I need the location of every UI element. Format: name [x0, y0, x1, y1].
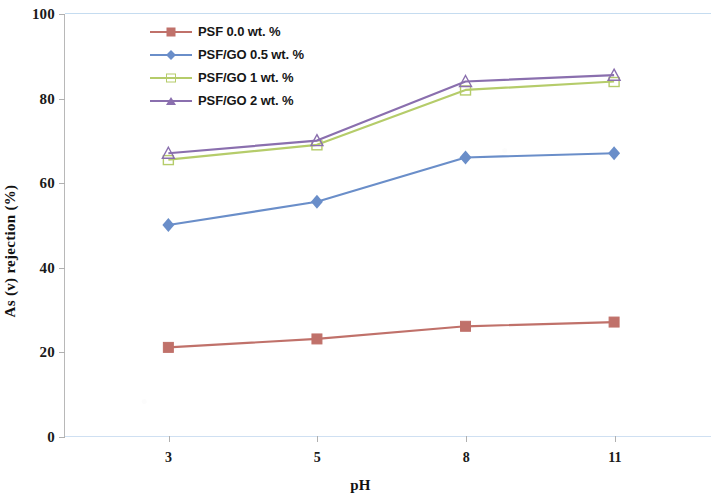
x-axis-tick-label: 11: [608, 450, 621, 466]
y-axis-tick-label: 80: [40, 90, 55, 107]
data-point-marker: [312, 334, 322, 344]
x-axis-tick: [317, 436, 318, 442]
legend: PSF 0.0 wt. %PSF/GO 0.5 wt. %PSF/GO 1 wt…: [150, 24, 304, 108]
legend-item-2[interactable]: PSF/GO 0.5 wt. %: [150, 47, 304, 62]
data-point-marker: [460, 150, 472, 164]
x-axis-tick-label: 3: [165, 450, 172, 466]
data-point-marker: [609, 317, 619, 327]
x-axis-tick: [169, 436, 170, 442]
legend-key-icon: [150, 94, 192, 108]
legend-label: PSF/GO 1 wt. %: [198, 70, 293, 85]
legend-label: PSF/GO 0.5 wt. %: [198, 47, 304, 62]
y-axis-tick-label: 20: [40, 344, 55, 361]
chart-figure: As (v) rejection (%) pH 020406080100 358…: [0, 0, 721, 502]
y-axis-tick: [59, 437, 65, 438]
legend-label: PSF 0.0 wt. %: [198, 24, 281, 39]
x-axis-tick: [615, 436, 616, 442]
y-axis-tick-label: 100: [32, 6, 55, 23]
legend-item-3[interactable]: PSF/GO 1 wt. %: [150, 70, 304, 85]
series-1: [163, 317, 619, 352]
data-point-marker: [608, 146, 620, 160]
x-axis-tick: [466, 436, 467, 442]
series-line: [168, 322, 614, 347]
y-axis-tick-label: 0: [47, 429, 55, 446]
x-axis-tick-label: 5: [314, 450, 321, 466]
x-axis-title: pH: [350, 477, 371, 494]
y-axis-title: As (v) rejection (%): [2, 185, 19, 318]
data-point-marker: [311, 195, 323, 209]
legend-item-4[interactable]: PSF/GO 2 wt. %: [150, 93, 304, 108]
series-line: [168, 153, 614, 225]
x-axis-tick-label: 8: [463, 450, 470, 466]
legend-key-icon: [150, 25, 192, 39]
legend-key-icon: [150, 71, 192, 85]
y-axis-tick-label: 60: [40, 175, 55, 192]
series-2: [162, 146, 620, 232]
data-point-marker: [162, 218, 174, 232]
legend-item-1[interactable]: PSF 0.0 wt. %: [150, 24, 304, 39]
legend-key-icon: [150, 48, 192, 62]
data-point-marker: [461, 321, 471, 331]
y-axis-tick-label: 40: [40, 259, 55, 276]
legend-label: PSF/GO 2 wt. %: [198, 93, 293, 108]
data-point-marker: [163, 342, 173, 352]
